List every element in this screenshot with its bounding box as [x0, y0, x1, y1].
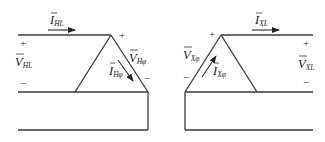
right-delta-circuit: IXL + VXφ − IXφ + VXL −: [183, 13, 314, 130]
right-phase-current-label: IXφ: [212, 64, 226, 79]
left-phase-current-label: IHφ: [108, 64, 123, 79]
right-delta-right-side: [221, 35, 257, 92]
right-line-voltage-plus: +: [303, 37, 309, 49]
left-phase-voltage-plus: +: [119, 29, 125, 41]
left-delta-left-side: [75, 35, 111, 92]
left-line-current-label: IHL: [49, 13, 64, 28]
left-line-voltage-plus: +: [20, 37, 26, 49]
right-line-voltage-label: VXL: [298, 57, 314, 72]
left-phase-voltage-label: VHφ: [129, 51, 146, 66]
right-phase-voltage-minus: −: [183, 71, 189, 83]
left-line-voltage-label: VHL: [15, 55, 32, 70]
delta-delta-diagram: IHL + VHL − + VHφ − IHφ IX: [0, 0, 325, 142]
left-phase-voltage-minus: −: [144, 72, 150, 84]
left-delta-circuit: IHL + VHL − + VHφ − IHφ: [15, 13, 150, 130]
right-phase-voltage-label: VXφ: [183, 48, 199, 63]
right-line-voltage-minus: −: [303, 76, 309, 88]
right-phase-voltage-plus: +: [209, 28, 215, 40]
right-line-current-label: IXL: [254, 13, 268, 28]
left-line-voltage-minus: −: [20, 77, 26, 89]
